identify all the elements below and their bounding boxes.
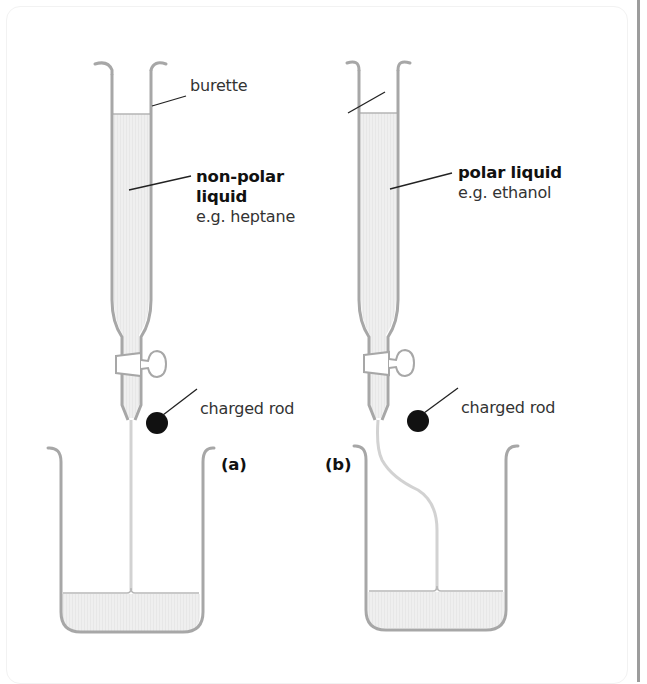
label-a-liquid-line1: non-polar [196,167,284,186]
leader-burette-b [348,92,385,113]
label-burette: burette [190,76,247,95]
leader-rod-a [163,389,197,415]
burette-a [95,63,166,420]
label-panel-a: (a) [221,455,247,474]
leader-burette-a [152,96,186,106]
burette-b [347,62,414,420]
leader-rod-b [424,388,458,413]
label-panel-b: (b) [325,455,351,474]
charged-rod-b-icon [407,410,429,432]
charged-rod-a-icon [146,412,168,434]
label-b-charged-rod: charged rod [461,398,555,417]
stopcock-a [116,353,141,376]
stream-b [378,420,438,590]
stopcock-b [364,352,389,375]
label-a-liquid-line2: liquid [196,187,247,206]
label-b-example: e.g. ethanol [458,183,551,202]
label-a-example: e.g. heptane [196,207,295,226]
label-b-liquid: polar liquid [458,163,562,182]
label-a-charged-rod: charged rod [200,399,294,418]
